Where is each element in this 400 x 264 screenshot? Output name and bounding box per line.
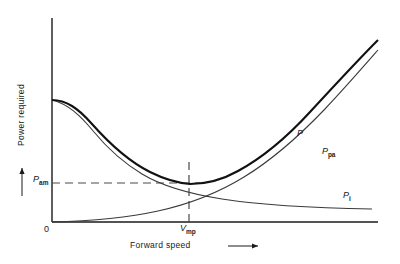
curve-label-parasite-power: Ppa: [322, 146, 335, 158]
vmp-subscript: mp: [186, 228, 196, 235]
chart-axes: [52, 18, 378, 222]
curve-label-induced-power-subscript: i: [349, 195, 351, 202]
x-axis-label-text: Forward speed: [130, 240, 191, 250]
guide-lines: [52, 158, 200, 222]
curve-label-induced-power: Pi: [343, 190, 351, 202]
curve-label-total-power: P: [297, 128, 303, 140]
curve-total-power: [52, 40, 378, 184]
pam-subscript: am: [39, 179, 48, 186]
x-axis-arrow-icon: [228, 243, 258, 248]
y-axis-label: Power required: [10, 60, 28, 170]
curve-parasite-power: [52, 50, 378, 222]
power-required-chart: [0, 0, 400, 264]
origin-label: 0: [44, 224, 49, 234]
curve-label-total-power-symbol: P: [297, 128, 303, 138]
y-axis-arrow-icon: [19, 168, 24, 196]
curve-label-parasite-power-subscript: pa: [328, 151, 335, 158]
pam-annotation: Pam: [33, 174, 48, 186]
y-axis-label-text: Power required: [16, 84, 26, 146]
vmp-annotation: Vmp: [180, 223, 196, 235]
x-axis-label: Forward speed: [130, 240, 191, 250]
